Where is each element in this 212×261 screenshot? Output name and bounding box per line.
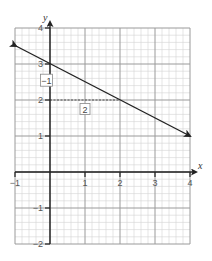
x-tick-label: 1 xyxy=(82,178,87,188)
coordinate-plane: −112344321−1−2 x y −1 2 xyxy=(0,0,212,261)
x-tick-label: 4 xyxy=(187,178,192,188)
x-tick-label: −1 xyxy=(10,178,20,188)
rise-value: −1 xyxy=(41,76,51,86)
y-axis-label: y xyxy=(42,12,48,23)
run-value: 2 xyxy=(82,105,87,115)
rise-boxed-label: −1 xyxy=(41,74,53,86)
x-tick-label: 3 xyxy=(152,178,157,188)
y-tick-label: 4 xyxy=(38,23,43,33)
y-tick-label: 1 xyxy=(38,131,43,141)
y-tick-label: −1 xyxy=(33,203,43,213)
run-boxed-label: 2 xyxy=(80,104,90,115)
y-tick-label: −2 xyxy=(33,239,43,249)
y-tick-label: 2 xyxy=(38,95,43,105)
x-axis-label: x xyxy=(197,160,203,171)
graphed-line xyxy=(16,46,190,136)
x-tick-label: 2 xyxy=(117,178,122,188)
y-tick-label: 3 xyxy=(38,59,43,69)
